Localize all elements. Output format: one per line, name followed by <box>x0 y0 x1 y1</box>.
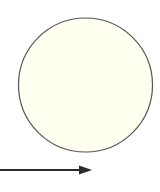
diagram-canvas <box>0 0 160 192</box>
circle-node <box>19 18 153 152</box>
